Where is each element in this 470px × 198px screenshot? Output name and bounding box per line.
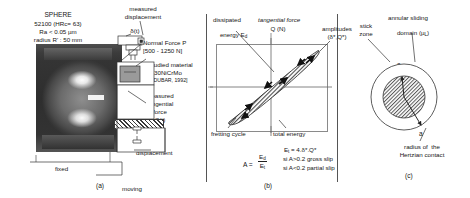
figure-root: SPHERE 52100 (HRc= 63) Ra < 0.05 µm radi… — [0, 0, 470, 198]
figure-line-art — [0, 0, 470, 198]
